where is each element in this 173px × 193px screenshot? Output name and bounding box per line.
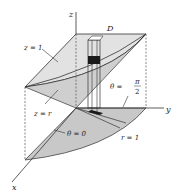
cone-surface-label: z = r bbox=[33, 110, 52, 118]
cylindrical-region-diagram: z y x D z = 1 z = r θ = 0 r = 1 θ = π 2 bbox=[0, 0, 173, 193]
top-surface-label: z = 1 bbox=[23, 44, 42, 52]
theta-quarter-lhs: θ = bbox=[110, 83, 122, 91]
theta-quarter-num: π bbox=[134, 78, 140, 86]
arrow-thetapi2 bbox=[123, 96, 128, 107]
theta-quarter-den: 2 bbox=[135, 88, 139, 96]
x-axis-label: x bbox=[12, 183, 17, 192]
radius-label: r = 1 bbox=[121, 134, 139, 142]
volume-element bbox=[88, 56, 100, 64]
theta-zero-label: θ = 0 bbox=[67, 130, 87, 138]
y-axis-label: y bbox=[165, 105, 171, 114]
z-axis-label: z bbox=[68, 10, 74, 19]
region-label: D bbox=[106, 24, 114, 33]
